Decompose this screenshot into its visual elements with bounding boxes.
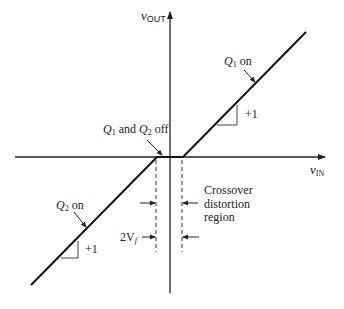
slope-label-upper: +1 — [245, 107, 258, 121]
both-off-label: Q1 and Q2 off — [103, 122, 168, 137]
both-off-pointer — [147, 140, 162, 155]
q2-on-label: Q2 on — [56, 198, 84, 213]
q1-on-pointer — [244, 70, 255, 82]
q1-on-label: Q1 on — [224, 54, 252, 69]
slope-label-lower: +1 — [85, 242, 98, 256]
y-axis-label: vOUT — [141, 8, 166, 24]
transfer-curve — [31, 32, 306, 285]
slope-triangle-upper — [217, 105, 237, 125]
slope-triangle-lower — [61, 241, 78, 258]
crossover-distortion-diagram: vOUT vIN Q1 on Q2 on Q1 and Q2 off +1 +1… — [0, 0, 344, 309]
q2-on-pointer — [74, 212, 86, 227]
x-axis-label: vIN — [310, 162, 324, 178]
crossover-label-line2: distortion — [204, 197, 250, 211]
crossover-label-line1: Crossover — [204, 183, 253, 197]
crossover-label-line3: region — [204, 210, 235, 224]
2vf-label: 2Vf — [120, 230, 139, 245]
